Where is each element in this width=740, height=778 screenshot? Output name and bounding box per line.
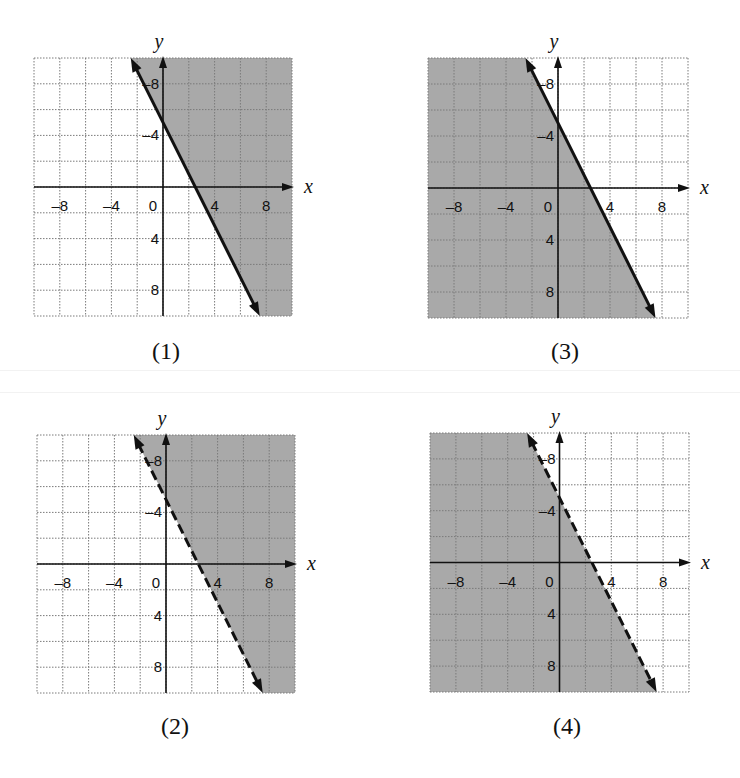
panel-caption-4: (4) — [553, 713, 581, 740]
x-tick-label: –4 — [499, 573, 516, 590]
y-axis-label: y — [549, 405, 560, 428]
x-axis-label: x — [700, 551, 710, 573]
x-tick-label: –8 — [448, 573, 465, 590]
y-tick-label: 4 — [547, 605, 555, 622]
x-tick-label: 8 — [659, 573, 667, 590]
graph-svg: xy–8–404884–4–8 — [0, 0, 740, 778]
x-tick-label: 4 — [607, 573, 615, 590]
x-tick-label: 0 — [545, 573, 553, 590]
y-tick-label: 8 — [547, 657, 555, 674]
y-tick-label: –4 — [539, 502, 556, 519]
line-arrow-top-icon — [527, 433, 538, 448]
